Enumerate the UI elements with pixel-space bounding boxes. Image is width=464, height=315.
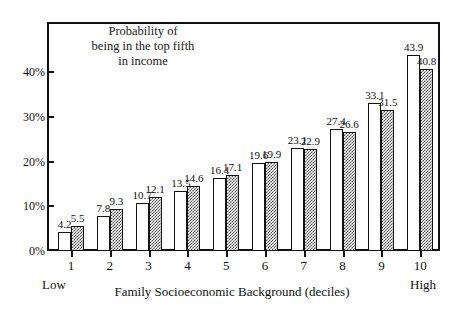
bar-open-decile-10 — [407, 55, 420, 251]
y-axis-tick-mark — [47, 71, 54, 73]
bar-shaded-decile-5 — [226, 175, 239, 251]
bar-value-label: 9.3 — [109, 195, 123, 207]
bar-value-label: 22.9 — [301, 135, 320, 147]
bar-shaded-decile-10 — [420, 69, 433, 251]
x-axis-tick-mark — [265, 251, 267, 257]
x-axis-tick-mark — [110, 251, 112, 257]
bar-value-label: 43.9 — [404, 41, 423, 53]
bar-open-decile-3 — [136, 203, 149, 251]
bar-open-decile-1 — [58, 232, 71, 251]
bar-value-label: 19.9 — [262, 148, 281, 160]
x-axis-tick-label-5: 5 — [223, 258, 230, 274]
bar-shaded-decile-6 — [265, 162, 278, 251]
bar-shaded-decile-7 — [304, 149, 317, 251]
x-axis-label: Family Socioeconomic Background (deciles… — [0, 284, 464, 300]
bar-value-label: 4.2 — [58, 218, 72, 230]
bar-value-label: 5.5 — [71, 212, 85, 224]
bar-open-decile-8 — [330, 129, 343, 251]
x-axis-tick-label-3: 3 — [145, 258, 152, 274]
chart-container: Probability of being in the top fifth in… — [0, 0, 464, 315]
bar-value-label: 31.5 — [378, 96, 397, 108]
x-axis-tick-mark — [343, 251, 345, 257]
x-axis-tick-mark — [149, 251, 151, 257]
x-axis-tick-label-9: 9 — [378, 258, 385, 274]
bar-open-decile-4 — [174, 191, 187, 251]
x-axis-tick-label-6: 6 — [262, 258, 269, 274]
bar-value-label: 40.8 — [417, 55, 436, 67]
x-axis-tick-mark — [187, 251, 189, 257]
x-axis-tick-mark — [304, 251, 306, 257]
x-axis-tick-label-2: 2 — [107, 258, 114, 274]
y-axis-tick-mark — [47, 116, 54, 118]
bar-open-decile-6 — [252, 163, 265, 251]
x-axis-tick-mark — [226, 251, 228, 257]
x-axis-tick-mark — [420, 251, 422, 257]
bar-shaded-decile-8 — [343, 132, 356, 251]
bar-value-label: 7.8 — [96, 202, 110, 214]
bar-value-label: 14.6 — [184, 172, 203, 184]
x-axis-tick-label-4: 4 — [184, 258, 191, 274]
bar-open-decile-2 — [97, 216, 110, 251]
bar-open-decile-7 — [291, 148, 304, 251]
bar-shaded-decile-4 — [187, 186, 200, 251]
x-axis-tick-label-7: 7 — [301, 258, 308, 274]
bar-shaded-decile-1 — [71, 226, 84, 251]
x-axis-tick-label-10: 10 — [414, 258, 427, 274]
bar-open-decile-5 — [213, 178, 226, 251]
bar-shaded-decile-3 — [149, 197, 162, 251]
x-axis-tick-label-8: 8 — [339, 258, 346, 274]
x-axis-tick-mark — [381, 251, 383, 257]
bar-shaded-decile-2 — [110, 209, 123, 251]
bar-value-label: 26.6 — [339, 118, 358, 130]
y-axis-tick-mark — [47, 161, 54, 163]
x-axis-tick-label-1: 1 — [68, 258, 75, 274]
bar-value-label: 12.1 — [145, 183, 164, 195]
bar-value-label: 17.1 — [223, 161, 242, 173]
y-axis-tick-mark — [47, 205, 54, 207]
x-axis-tick-mark — [71, 251, 73, 257]
bar-shaded-decile-9 — [381, 110, 394, 251]
bar-open-decile-9 — [368, 103, 381, 251]
